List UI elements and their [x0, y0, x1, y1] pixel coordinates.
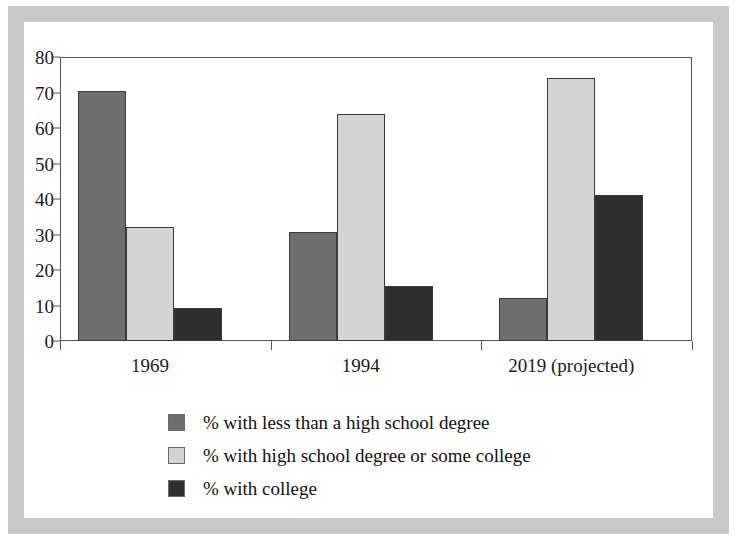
x-axis-tick-label: 1994	[342, 355, 380, 377]
x-axis-tick-label: 1969	[131, 355, 169, 377]
y-axis-tick-label: 40	[20, 190, 54, 209]
legend-item-label: % with college	[203, 478, 317, 499]
bar	[385, 286, 433, 341]
y-axis-tick-label: 20	[20, 261, 54, 280]
y-axis-tick-label: 50	[20, 154, 54, 173]
x-axis-tick-mark	[60, 341, 61, 350]
bar	[174, 308, 222, 341]
chart-plot-wrapper: 01020304050607080 196919942019 (projecte…	[24, 22, 713, 518]
legend-item: % with college	[168, 472, 688, 505]
legend-swatch-icon	[168, 447, 185, 464]
y-axis: 01020304050607080	[24, 22, 54, 518]
y-axis-tick-label: 30	[20, 225, 54, 244]
bar	[289, 232, 337, 341]
y-axis-tick-mark	[51, 128, 60, 129]
bar	[126, 227, 174, 341]
legend-item: % with less than a high school degree	[168, 406, 688, 439]
legend-item-label: % with high school degree or some colleg…	[203, 445, 531, 466]
legend-item-label: % with less than a high school degree	[203, 412, 490, 433]
y-axis-tick-label: 0	[20, 332, 54, 351]
y-axis-tick-mark	[51, 341, 60, 342]
figure-inner-canvas: 01020304050607080 196919942019 (projecte…	[24, 22, 713, 518]
bar	[547, 78, 595, 341]
x-axis-tick-mark	[481, 341, 482, 350]
y-axis-tick-label: 70	[20, 83, 54, 102]
y-axis-tick-label: 80	[20, 48, 54, 67]
y-axis-tick-mark	[51, 199, 60, 200]
y-axis-tick-mark	[51, 57, 60, 58]
x-axis-tick-label: 2019 (projected)	[508, 355, 634, 377]
y-axis-tick-label: 10	[20, 296, 54, 315]
bar	[78, 91, 126, 341]
y-axis-tick-mark	[51, 270, 60, 271]
bar	[595, 195, 643, 341]
y-axis-tick-mark	[51, 163, 60, 164]
bar	[499, 298, 547, 341]
bar	[337, 114, 385, 341]
chart-legend: % with less than a high school degree% w…	[168, 406, 688, 505]
legend-swatch-icon	[168, 480, 185, 497]
legend-item: % with high school degree or some colleg…	[168, 439, 688, 472]
y-axis-tick-label: 60	[20, 119, 54, 138]
figure-root: 01020304050607080 196919942019 (projecte…	[0, 0, 737, 540]
y-axis-tick-mark	[51, 234, 60, 235]
x-axis-tick-mark	[692, 341, 693, 350]
y-axis-tick-mark	[51, 92, 60, 93]
legend-swatch-icon	[168, 414, 185, 431]
y-axis-tick-mark	[51, 305, 60, 306]
x-axis-tick-mark	[271, 341, 272, 350]
